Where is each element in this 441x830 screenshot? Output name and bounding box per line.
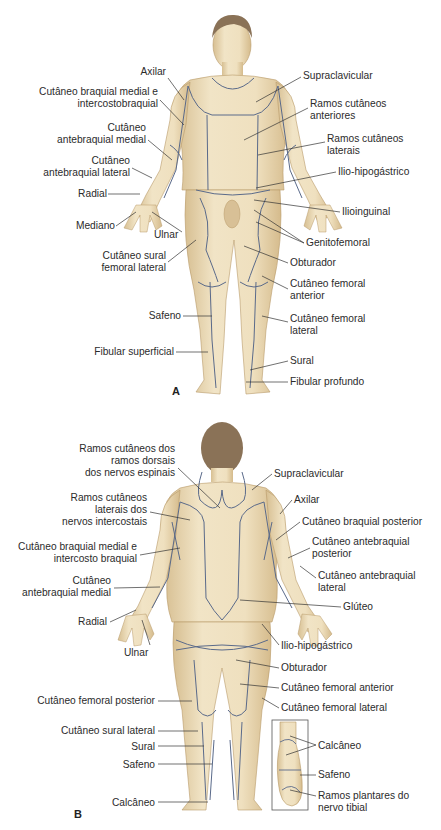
label-cutaneo-antebraquial-lateral-a: Cutâneoantebraquial lateral	[43, 155, 130, 179]
label-fibular-profundo-a: Fibular profundo	[290, 376, 364, 388]
label-cutaneo-femoral-anterior-a: Cutâneo femoralanterior	[290, 278, 365, 302]
label-radial-b: Radial	[78, 616, 107, 628]
label-calcaneo-b: Calcâneo	[112, 797, 155, 809]
label-ilioinguinal-a: Ilioinguinal	[342, 206, 390, 218]
label-axilar-a: Axilar	[141, 66, 166, 78]
label-safeno-b: Safeno	[123, 759, 155, 771]
label-ramos-cutaneos-laterais-a: Ramos cutâneoslaterais	[327, 133, 403, 157]
label-sural-b: Sural	[131, 741, 155, 753]
label-supraclavicular-b: Supraclavicular	[274, 468, 344, 480]
label-cutaneo-antebraquial-lateral-b: Cutâneo antebraquiallateral	[318, 570, 415, 594]
label-supraclavicular-a: Supraclavicular	[303, 70, 373, 82]
label-ilio-hipogastrico-a: Ilio-hipogástrico	[338, 166, 409, 178]
label-inset-safeno: Safeno	[318, 769, 350, 781]
label-ilio-hipogastrico-b: Ilio-hipogástrico	[281, 640, 352, 652]
label-cutaneo-antebraquial-medial-a: Cutâneoantebraquial medial	[57, 122, 146, 146]
label-cutaneo-femoral-posterior-b: Cutâneo femoral posterior	[37, 695, 155, 707]
label-cutaneo-sural-lateral-b: Cutâneo sural lateral	[61, 725, 155, 737]
label-cutaneo-antebraquial-medial-b: Cutâneoantebraquial medial	[22, 575, 111, 599]
label-ramos-cutaneos-anteriores-a: Ramos cutâneosanteriores	[310, 98, 386, 122]
label-ulnar-b: Ulnar	[124, 647, 148, 659]
label-cutaneo-braquial-medial-a: Cutâneo braquial medial eintercostobraqu…	[39, 86, 158, 110]
label-gluteo-b: Glúteo	[343, 601, 373, 613]
label-cutaneo-femoral-lateral-a: Cutâneo femorallateral	[290, 313, 365, 337]
label-ramos-dorsais-b: Ramos cutâneos dosramos dorsaisdos nervo…	[79, 443, 175, 479]
label-radial-a: Radial	[78, 188, 107, 200]
label-axilar-b: Axilar	[294, 494, 319, 506]
label-cutaneo-femoral-anterior-b: Cutâneo femoral anterior	[281, 682, 394, 694]
label-cutaneo-femoral-lateral-b: Cutâneo femoral lateral	[281, 702, 387, 714]
label-cutaneo-braquial-medial-b: Cutâneo braquial medial eintercosto braq…	[18, 541, 137, 565]
label-cutaneo-braquial-posterior-b: Cutâneo braquial posterior	[302, 516, 422, 528]
label-inset-calcaneo: Calcâneo	[318, 740, 361, 752]
label-cutaneo-sural-femoral-lateral-a: Cutâneo suralfemoral lateral	[101, 250, 166, 274]
label-cutaneo-antebraquial-posterior-b: Cutâneo antebraquialposterior	[312, 536, 409, 560]
label-ulnar-a: Ulnar	[154, 229, 178, 241]
label-genitofemoral-a: Genitofemoral	[306, 237, 370, 249]
label-obturador-a: Obturador	[290, 257, 336, 269]
label-obturador-b: Obturador	[281, 662, 327, 674]
label-inset-ramos-plantares: Ramos plantares donervo tibial	[318, 790, 409, 814]
panel-label-b: B	[74, 808, 82, 820]
label-mediano-a: Mediano	[76, 220, 115, 232]
label-ramos-intercostais-b: Ramos cutâneoslaterais dosnervos interco…	[62, 492, 147, 528]
label-fibular-superficial-a: Fibular superficial	[94, 346, 174, 358]
label-sural-a: Sural	[290, 355, 314, 367]
panel-label-a: A	[172, 385, 180, 397]
label-safeno-a: Safeno	[149, 310, 181, 322]
